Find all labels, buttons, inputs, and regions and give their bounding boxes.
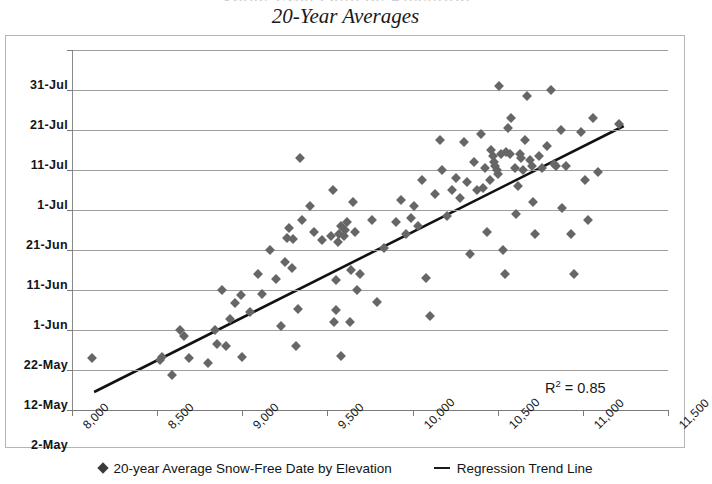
y-axis-label: 21-Jul — [30, 118, 68, 132]
y-axis-label: 1-Jun — [33, 318, 68, 332]
y-axis-tick — [67, 130, 73, 131]
gridline-y — [72, 330, 668, 331]
x-axis-tick — [583, 410, 584, 416]
x-axis-tick — [498, 410, 499, 416]
gridline-y — [72, 50, 668, 51]
legend-item-label: 20-year Average Snow-Free Date by Elevat… — [114, 461, 392, 476]
gridline-y — [72, 370, 668, 371]
x-axis-tick — [242, 410, 243, 416]
r-squared-annotation: R2 = 0.85 — [545, 378, 606, 396]
x-axis-tick — [668, 410, 669, 416]
x-axis-tick — [72, 410, 73, 416]
gridline-y — [72, 290, 668, 291]
x-axis-tick — [327, 410, 328, 416]
gridline-y — [72, 90, 668, 91]
y-axis-label: 22-May — [24, 358, 68, 372]
x-axis-tick — [413, 410, 414, 416]
y-axis-tick — [67, 370, 73, 371]
legend-item[interactable]: Regression Trend Line — [434, 461, 593, 476]
y-axis-tick — [67, 290, 73, 291]
gridline-y — [72, 210, 668, 211]
y-axis-labels: 2-May12-May22-May1-Jun11-Jun21-Jun1-Jul1… — [6, 71, 68, 484]
y-axis-label: 11-Jul — [31, 158, 68, 172]
y-axis-label: 11-Jun — [27, 278, 68, 292]
y-axis-label: 2-May — [31, 438, 68, 452]
y-axis-tick — [67, 250, 73, 251]
legend-item-label: Regression Trend Line — [457, 461, 593, 476]
gridline-y — [72, 410, 668, 411]
chart-legend: 20-year Average Snow-Free Date by Elevat… — [0, 452, 691, 484]
y-axis-tick — [67, 170, 73, 171]
diamond-marker-icon — [97, 462, 108, 473]
y-axis-tick — [67, 50, 73, 51]
line-marker-icon — [434, 467, 450, 470]
r-squared-symbol: R — [545, 380, 555, 396]
y-axis-label: 12-May — [24, 398, 68, 412]
plot-area — [72, 50, 668, 410]
y-axis-tick — [67, 90, 73, 91]
y-axis-label: 31-Jul — [30, 78, 68, 92]
y-axis-tick — [67, 210, 73, 211]
y-axis-label: 21-Jun — [26, 238, 68, 252]
y-axis-tick — [67, 330, 73, 331]
x-axis-tick — [157, 410, 158, 416]
gridline-y — [72, 250, 668, 251]
legend-item[interactable]: 20-year Average Snow-Free Date by Elevat… — [99, 461, 392, 476]
gridline-y — [72, 170, 668, 171]
page-title: 20-Year Averages — [0, 0, 691, 32]
r-squared-value: = 0.85 — [561, 380, 606, 396]
y-axis-label: 1-Jul — [37, 198, 68, 212]
